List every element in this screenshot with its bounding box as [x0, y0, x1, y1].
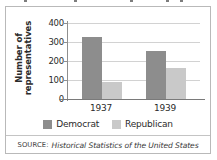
bar-1939-republican	[166, 68, 186, 99]
y-tick-mark-300	[64, 42, 68, 43]
source-row: SOURCE: Historical Statistics of the Uni…	[6, 137, 210, 153]
legend-label-republican: Republican	[125, 119, 173, 129]
y-axis-title-line-2: representatives	[24, 21, 34, 96]
x-tick-label-1937: 1937	[78, 103, 124, 113]
y-axis-title: Number of representatives	[9, 12, 39, 104]
legend-item-republican: Republican	[112, 119, 173, 129]
legend-label-democrat: Democrat	[56, 119, 99, 129]
y-tick-mark-400	[64, 23, 68, 24]
bar-1937-democrat	[82, 37, 102, 99]
text-fragment	[24, 0, 27, 2]
y-tick-mark-100	[64, 80, 68, 81]
text-fragment	[166, 0, 169, 2]
clipped-text-above-figure	[0, 0, 217, 4]
bar-1937-republican	[102, 82, 122, 99]
source-label: SOURCE:	[17, 141, 48, 149]
chart-legend: Democrat Republican	[6, 119, 210, 129]
x-axis-line	[59, 99, 205, 100]
y-tick-label-200: 200	[38, 57, 64, 65]
chart-plot-wrapper: Number of representatives 400 300 200 10…	[6, 7, 210, 135]
source-title: Historical Statistics of the United Stat…	[52, 141, 199, 150]
text-fragment	[74, 0, 77, 2]
legend-swatch-republican	[112, 120, 121, 129]
legend-swatch-democrat	[43, 120, 52, 129]
x-tick-label-1939: 1939	[142, 103, 188, 113]
text-fragment	[130, 0, 133, 2]
text-fragment	[180, 0, 183, 2]
legend-item-democrat: Democrat	[43, 119, 99, 129]
y-tick-label-300: 300	[38, 38, 64, 46]
source-divider	[6, 135, 210, 136]
y-tick-mark-200	[64, 61, 68, 62]
bar-1939-democrat	[146, 51, 166, 99]
gridline-400	[68, 23, 200, 24]
chart-figure: Number of representatives 400 300 200 10…	[5, 6, 211, 154]
plot-area	[68, 23, 200, 99]
y-tick-label-100: 100	[38, 76, 64, 84]
y-tick-label-400: 400	[38, 19, 64, 27]
